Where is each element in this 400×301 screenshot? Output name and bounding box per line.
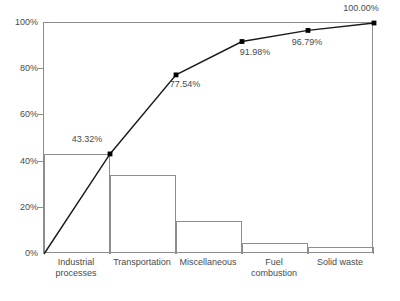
pareto-chart: 100%80%60%40%20%0% 43.32%77.54%91.98%96.… [0,0,400,301]
x-tick-label-2: Transportation [109,257,175,268]
x-tick-label-1: Industrial processes [43,257,109,279]
y-tick-label: 0% [0,248,38,258]
data-point-marker-5 [372,21,377,26]
bar-4 [242,243,308,254]
data-point-marker-2 [174,72,179,77]
x-tick-label-4: Fuel combustion [241,257,307,279]
bar-3 [176,221,242,254]
cumulative-label-3: 91.98% [240,47,271,57]
y-tick-label: 40% [0,156,38,166]
data-point-marker-3 [240,39,245,44]
data-point-marker-4 [306,28,311,33]
cumulative-label-2: 77.54% [170,79,201,89]
y-tick-label: 80% [0,63,38,73]
x-tick-label-5: Solid waste [307,257,373,268]
cumulative-label-1: 43.32% [72,134,103,144]
x-tick-label-3: Miscellaneous [175,257,241,268]
cumulative-label-5: 100.00% [343,3,379,13]
y-tick-label: 20% [0,202,38,212]
y-tick-label: 60% [0,109,38,119]
cumulative-label-4: 96.79% [292,37,323,47]
bar-1 [44,154,110,254]
y-tick-label: 100% [0,17,38,27]
bar-5 [308,247,374,254]
bar-2 [110,175,176,254]
